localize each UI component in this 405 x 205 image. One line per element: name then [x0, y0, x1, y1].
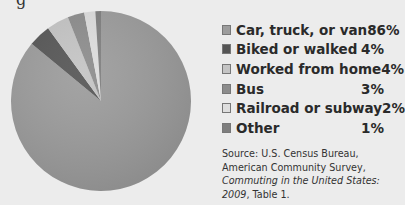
legend-item-car: Car, truck, or van 86% [222, 20, 384, 40]
pie-chart [8, 8, 194, 194]
legend-label: Worked from home [236, 61, 381, 77]
legend-item-rail: Railroad or subway 2% [222, 98, 384, 118]
pie-shading [11, 11, 191, 191]
swatch-other [222, 123, 231, 133]
legend-label: Biked or walked [236, 41, 361, 57]
legend-value: 4% [381, 61, 404, 77]
legend-item-bus: Bus 3% [222, 79, 384, 99]
legend-value: 4% [361, 41, 384, 57]
legend-value: 86% [367, 22, 399, 38]
legend-label: Railroad or subway [236, 100, 382, 116]
swatch-car [222, 25, 231, 35]
legend: Car, truck, or van 86% Biked or walked 4… [222, 20, 384, 138]
swatch-rail [222, 103, 231, 113]
source-prefix: Source: U.S. Census Bureau, American Com… [222, 148, 366, 173]
swatch-biked [222, 44, 231, 54]
legend-label: Bus [236, 81, 361, 97]
pie-svg [8, 8, 194, 194]
swatch-bus [222, 84, 231, 94]
swatch-home [222, 64, 231, 74]
legend-value: 2% [382, 100, 405, 116]
source-suffix: , Table 1. [246, 189, 289, 200]
legend-value: 3% [361, 81, 384, 97]
legend-label: Car, truck, or van [236, 22, 367, 38]
legend-item-other: Other 1% [222, 118, 384, 138]
source-note: Source: U.S. Census Bureau, American Com… [222, 147, 390, 201]
legend-label: Other [236, 120, 361, 136]
legend-item-home: Worked from home 4% [222, 59, 384, 79]
legend-item-biked: Biked or walked 4% [222, 40, 384, 60]
legend-value: 1% [361, 120, 384, 136]
